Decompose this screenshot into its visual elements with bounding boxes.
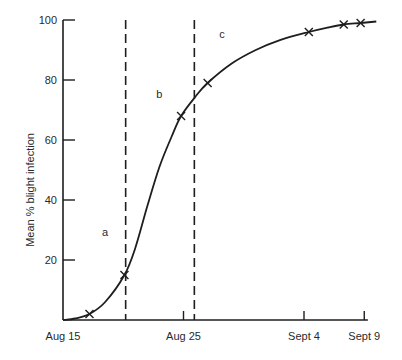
y-tick-label: 20 xyxy=(45,254,57,266)
cross-marker-icon xyxy=(120,271,128,279)
region-label-c: c xyxy=(219,28,225,40)
cross-marker-icon xyxy=(204,79,212,87)
labels: abc xyxy=(102,28,225,238)
period-dividers xyxy=(126,20,195,320)
region-label-a: a xyxy=(102,226,109,238)
y-tick-label: 40 xyxy=(45,194,57,206)
cross-marker-icon xyxy=(86,310,94,318)
x-tick-label: Sept 4 xyxy=(288,330,320,342)
y-axis-title: Mean % blight infection xyxy=(24,133,36,247)
y-tick-label: 60 xyxy=(45,134,57,146)
x-tick-label: Sept 9 xyxy=(348,330,380,342)
x-tick-label: Aug 15 xyxy=(46,330,81,342)
cross-marker-icon xyxy=(177,112,185,120)
axes: 20406080100Aug 15Aug 25Sept 4Sept 9Mean … xyxy=(24,14,380,342)
x-tick-label: Aug 25 xyxy=(166,330,201,342)
y-tick-label: 80 xyxy=(45,74,57,86)
blight-infection-chart: 20406080100Aug 15Aug 25Sept 4Sept 9Mean … xyxy=(0,0,402,360)
region-label-b: b xyxy=(156,88,162,100)
y-tick-label: 100 xyxy=(39,14,57,26)
infection-curve-path xyxy=(63,22,376,321)
data-markers xyxy=(86,19,365,318)
infection-curve xyxy=(63,22,376,321)
